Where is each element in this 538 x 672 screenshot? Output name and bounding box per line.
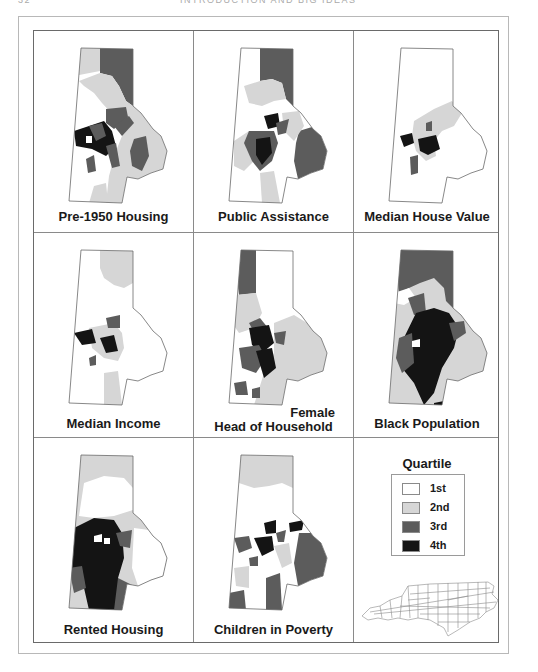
- swatch-q2: [402, 502, 420, 514]
- map-panel-public-assistance: Public Assistance: [194, 31, 353, 232]
- panel-title: Children in Poverty: [194, 622, 353, 637]
- panel-title-line2: Head of Household: [194, 419, 353, 434]
- panel-title: Pre-1950 Housing: [34, 209, 193, 224]
- legend-label: 4th: [430, 539, 447, 551]
- page-header: 32 INTRODUCTION AND BIG IDEAS: [0, 0, 538, 5]
- panel-title-line1: Female: [194, 405, 353, 420]
- legend-panel: Quartile 1st 2nd 3rd 4th: [354, 438, 500, 643]
- panel-title: Black Population: [354, 416, 500, 431]
- map-panel-pre-1950-housing: Pre-1950 Housing: [34, 31, 193, 232]
- panel-title: Rented Housing: [34, 622, 193, 637]
- legend-label: 1st: [430, 482, 446, 494]
- legend-label: 2nd: [430, 501, 450, 513]
- map-panel-black-population: Black Population: [354, 233, 500, 437]
- choropleth-map: [354, 31, 500, 232]
- choropleth-map: [34, 233, 193, 437]
- choropleth-map: [34, 438, 193, 643]
- map-grid: Pre-1950 Housing Public Assistance: [33, 30, 499, 643]
- running-title: INTRODUCTION AND BIG IDEAS: [180, 0, 357, 5]
- map-panel-children-in-poverty: Children in Poverty: [194, 438, 353, 643]
- legend-label: 3rd: [430, 520, 447, 532]
- legend-box: 1st 2nd 3rd 4th: [391, 474, 465, 556]
- map-panel-median-house-value: Median House Value: [354, 31, 500, 232]
- panel-title: Median House Value: [354, 209, 500, 224]
- swatch-q1: [402, 483, 420, 495]
- choropleth-map: [354, 233, 500, 437]
- map-panel-rented-housing: Rented Housing: [34, 438, 193, 643]
- map-panel-female-head-of-household: Female Head of Household: [194, 233, 353, 437]
- choropleth-map: [34, 31, 193, 232]
- map-panel-median-income: Median Income: [34, 233, 193, 437]
- swatch-q3: [402, 521, 420, 533]
- swatch-q4: [402, 540, 420, 552]
- page-number: 32: [18, 0, 31, 5]
- north-carolina-inset-map: [360, 578, 500, 638]
- panel-title: Median Income: [34, 416, 193, 431]
- choropleth-map: [194, 438, 353, 643]
- choropleth-map: [194, 31, 353, 232]
- legend-title: Quartile: [354, 456, 500, 471]
- panel-title: Public Assistance: [194, 209, 353, 224]
